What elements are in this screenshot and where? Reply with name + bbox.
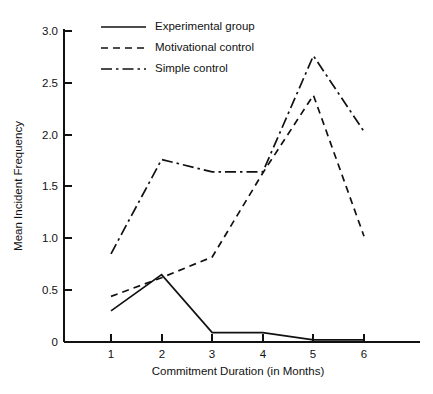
y-tick-label-1.5: 1.5 — [42, 180, 58, 192]
y-axis-title: Mean Incident Frequency — [12, 121, 24, 251]
x-tick-label-5: 5 — [310, 348, 316, 360]
x-tick-group: 1 2 3 4 5 6 — [108, 334, 367, 360]
chart-canvas: 3.0 2.5 2.0 1.5 1.0 0.5 0 1 2 3 4 5 6 Co… — [0, 0, 433, 394]
x-tick-label-1: 1 — [108, 348, 114, 360]
x-tick-label-6: 6 — [361, 348, 367, 360]
series-line-experimental-group — [111, 275, 364, 340]
x-axis-title: Commitment Duration (in Months) — [152, 365, 325, 377]
y-tick-label-2.5: 2.5 — [42, 77, 58, 89]
y-tick-label-0: 0 — [52, 336, 58, 348]
y-tick-label-0.5: 0.5 — [42, 284, 58, 296]
legend: Experimental group Motivational control … — [101, 20, 255, 74]
x-tick-label-4: 4 — [260, 348, 267, 360]
legend-label-experimental-group: Experimental group — [155, 20, 255, 32]
y-tick-label-3.0: 3.0 — [42, 25, 58, 37]
series-line-simple-control — [111, 56, 364, 254]
x-tick-label-2: 2 — [159, 348, 165, 360]
line-chart-figure: 3.0 2.5 2.0 1.5 1.0 0.5 0 1 2 3 4 5 6 Co… — [0, 0, 433, 394]
y-tick-label-2.0: 2.0 — [42, 129, 58, 141]
series-line-motivational-control — [111, 95, 364, 296]
series-group — [111, 56, 364, 340]
y-tick-label-1.0: 1.0 — [42, 232, 58, 244]
y-tick-group: 3.0 2.5 2.0 1.5 1.0 0.5 0 — [42, 25, 72, 348]
legend-label-motivational-control: Motivational control — [155, 41, 254, 53]
x-tick-label-3: 3 — [209, 348, 215, 360]
legend-label-simple-control: Simple control — [155, 62, 228, 74]
axis-group — [64, 29, 420, 342]
